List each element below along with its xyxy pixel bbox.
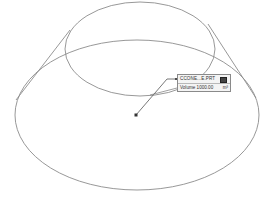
volume-label: Volume xyxy=(180,85,197,90)
mass-properties-callout[interactable]: CCONE...E.PRT Volume 1000.00 m³ xyxy=(177,74,231,92)
cone-geometry xyxy=(0,0,272,201)
graphics-viewport[interactable]: CCONE...E.PRT Volume 1000.00 m³ xyxy=(0,0,272,201)
callout-name-row: CCONE...E.PRT xyxy=(178,75,230,83)
part-name-label: CCONE...E.PRT xyxy=(180,76,215,81)
volume-unit: m³ xyxy=(223,84,228,92)
callout-volume-row: Volume 1000.00 m³ xyxy=(178,83,230,92)
centroid-point-icon[interactable] xyxy=(135,114,138,117)
volume-value: 1000.00 xyxy=(197,85,214,90)
square-pin-icon[interactable] xyxy=(220,77,227,83)
leader-line-name xyxy=(136,79,177,115)
left-silhouette-edge[interactable] xyxy=(16,30,70,100)
